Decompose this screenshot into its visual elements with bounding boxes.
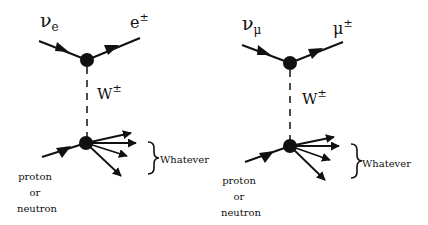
top-vertex <box>283 56 297 70</box>
top-vertex <box>80 53 94 67</box>
outgoing-lepton-line <box>290 42 343 63</box>
outgoing-lepton-label: e± <box>130 11 149 32</box>
incoming-neutrino-line <box>242 45 290 63</box>
incoming-lepton-label: νμ <box>242 12 262 37</box>
target-label-line-3: neutron <box>17 203 58 214</box>
arrow-icon <box>104 45 119 55</box>
brace-icon <box>351 144 362 178</box>
arrow-icon <box>257 45 271 55</box>
boson-label: W± <box>302 87 327 108</box>
boson-label: W± <box>97 82 122 103</box>
arrow-icon <box>55 42 69 52</box>
outgoing-lepton-line <box>87 38 140 60</box>
target-label-line-1: proton <box>222 175 256 186</box>
diagram-electron-neutrino: νe e± W± Whatever proton or neutron <box>17 9 209 214</box>
target-label-line-2: or <box>234 191 245 202</box>
diagram-muon-neutrino: νμ μ± W± Whatever proton or neutron <box>221 12 411 218</box>
arrow-icon <box>308 48 323 59</box>
product-arrows <box>290 137 339 180</box>
target-label-line-3: neutron <box>221 207 262 218</box>
incoming-neutrino-line <box>39 41 87 60</box>
outgoing-lepton-label: μ± <box>333 17 353 38</box>
brace-icon <box>148 142 159 174</box>
incoming-lepton-label: νe <box>40 9 59 34</box>
product-arrows <box>86 133 136 176</box>
products-label: Whatever <box>362 158 411 169</box>
target-label-line-2: or <box>30 187 41 198</box>
products-label: Whatever <box>160 154 209 165</box>
incoming-nucleon-line <box>245 146 290 163</box>
target-label-line-1: proton <box>18 171 52 182</box>
